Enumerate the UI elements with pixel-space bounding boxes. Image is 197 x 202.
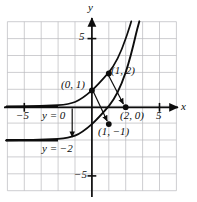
graph-figure: x y −5 5 5 −5 y = 0 y = −2 (0, 1) (1, 2)… — [0, 0, 197, 202]
y-tick-label-pos5: 5 — [79, 31, 85, 42]
asymptote-label-y-equals-neg2: y = −2 — [42, 143, 73, 154]
point-label-2-0: (2, 0) — [120, 110, 144, 121]
x-axis-label: x — [181, 101, 186, 112]
x-tick-label-pos5: 5 — [156, 110, 162, 121]
point-0-1 — [89, 88, 95, 94]
point-label-1-2: (1, 2) — [111, 65, 135, 76]
arrow-point-12-to-20 — [109, 76, 124, 105]
x-tick-label-neg5: −5 — [16, 110, 29, 121]
asymptote-label-y-equals-0: y = 0 — [42, 110, 65, 121]
y-tick-label-neg5: −5 — [74, 169, 87, 180]
y-axis-label: y — [88, 2, 93, 13]
point-label-0-1: (0, 1) — [61, 79, 85, 90]
point-label-1-neg1: (1, −1) — [98, 126, 129, 137]
coordinate-plane-svg — [0, 0, 197, 202]
